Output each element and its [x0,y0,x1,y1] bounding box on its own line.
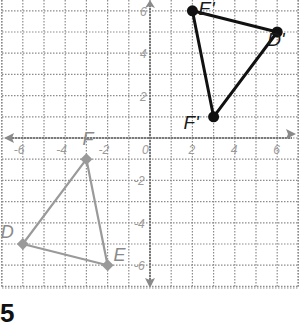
vertex-label: E' [198,0,216,19]
coordinate-plane: -6-4-20246642-2-4-6 DEF D'E'F' [0,0,300,295]
x-tick-label: -4 [56,143,67,157]
x-tick-label: 2 [187,143,195,157]
vertex-label: F [82,129,94,149]
problem-number: 5 [0,300,14,326]
y-tick-label: -2 [134,174,145,188]
x-tick-label: -2 [99,143,110,157]
vertex-label: D [1,222,14,242]
x-tick-label: 0 [142,143,149,157]
y-tick-label: -4 [134,217,145,231]
y-tick-label: -6 [134,259,145,273]
axis-tick-labels: -6-4-20246642-2-4-6 [14,5,280,273]
vertex-point [187,5,198,16]
vertex-point [102,259,114,271]
x-tick-label: -6 [14,143,25,157]
y-tick-label: 4 [140,47,147,61]
x-tick-label: 6 [273,143,280,157]
vertex-label: D' [267,29,286,50]
vertex-label: E [114,245,127,265]
vertex-label: F' [184,112,201,133]
y-tick-label: 6 [140,5,147,19]
vertex-point [208,111,219,122]
x-tick-label: 4 [231,143,238,157]
y-tick-label: 2 [139,90,147,104]
